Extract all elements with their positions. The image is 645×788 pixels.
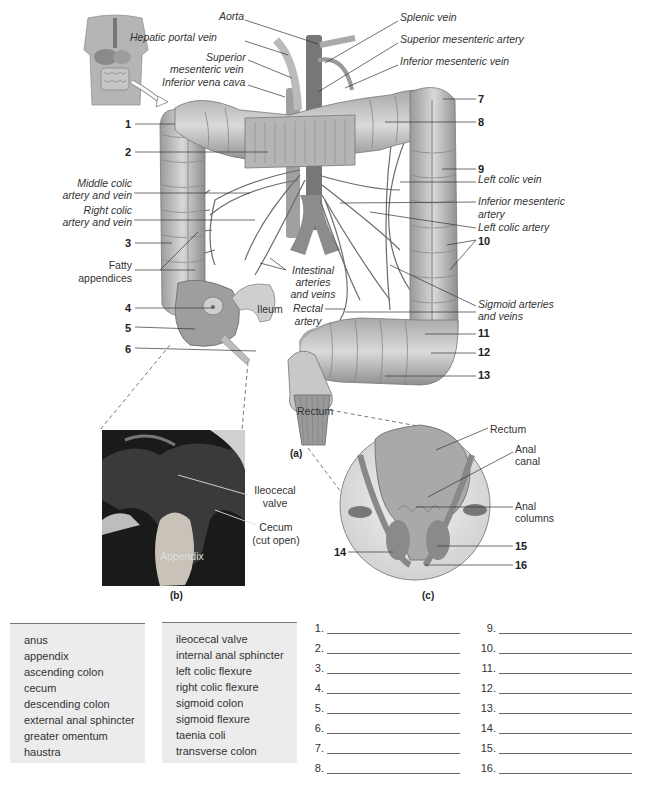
- word-bank-item: appendix: [24, 648, 145, 664]
- label-aorta: Aorta: [219, 10, 244, 23]
- number-3: 3: [125, 237, 131, 250]
- answer-blank-11[interactable]: 11.: [474, 662, 632, 674]
- number-2: 2: [125, 146, 131, 159]
- label-inferior-vena-cava: Inferior vena cava: [162, 76, 245, 89]
- answer-blank-1[interactable]: 1.: [302, 622, 460, 634]
- answer-number: 15.: [474, 742, 499, 754]
- label-sigmoid-arteries-line2: and veins: [478, 310, 523, 323]
- answer-blank-13[interactable]: 13.: [474, 702, 632, 714]
- word-bank-item: internal anal sphincter: [176, 647, 297, 663]
- answer-number: 12.: [474, 682, 499, 694]
- answer-input[interactable]: [327, 763, 460, 774]
- label-fatty-appendices-line1: Fatty: [109, 259, 132, 272]
- word-bank-item: ileocecal valve: [176, 631, 297, 647]
- answer-blank-7[interactable]: 7.: [302, 742, 460, 754]
- label-ileocecal-valve-line1: Ileocecal: [246, 484, 304, 497]
- label-appendix-photo: Appendix: [160, 550, 204, 563]
- answer-blank-10[interactable]: 10.: [474, 642, 632, 654]
- torso-thumbnail: [84, 15, 148, 105]
- answer-number: 7.: [302, 742, 327, 754]
- answer-blank-5[interactable]: 5.: [302, 702, 460, 714]
- label-rectum-a: Rectum: [297, 405, 333, 418]
- number-9: 9: [478, 163, 484, 176]
- answer-input[interactable]: [327, 663, 460, 674]
- word-bank-column-2: ileocecal valve internal anal sphincter …: [162, 622, 297, 763]
- answer-number: 6.: [302, 722, 327, 734]
- panel-c-caption: (c): [422, 590, 434, 603]
- answer-blank-3[interactable]: 3.: [302, 662, 460, 674]
- answer-blank-8[interactable]: 8.: [302, 762, 460, 774]
- label-hepatic-portal-vein: Hepatic portal vein: [130, 31, 217, 44]
- answer-input[interactable]: [327, 683, 460, 694]
- label-cecum-line1: Cecum: [246, 521, 306, 534]
- answer-input[interactable]: [327, 623, 460, 634]
- answer-blank-12[interactable]: 12.: [474, 682, 632, 694]
- answer-input[interactable]: [499, 643, 632, 654]
- answer-blank-15[interactable]: 15.: [474, 742, 632, 754]
- answer-number: 2.: [302, 642, 327, 654]
- label-splenic-vein: Splenic vein: [400, 11, 457, 24]
- label-inferior-mesenteric-artery-line1: Inferior mesenteric: [478, 195, 565, 208]
- label-left-colic-vein: Left colic vein: [478, 173, 542, 186]
- answer-input[interactable]: [499, 623, 632, 634]
- answer-number: 9.: [474, 622, 499, 634]
- answer-blank-2[interactable]: 2.: [302, 642, 460, 654]
- answer-number: 3.: [302, 662, 327, 674]
- word-bank-item: anus: [24, 632, 145, 648]
- answer-blank-4[interactable]: 4.: [302, 682, 460, 694]
- answer-input[interactable]: [327, 643, 460, 654]
- answer-number: 14.: [474, 722, 499, 734]
- answer-blank-16[interactable]: 16.: [474, 762, 632, 774]
- label-superior-mesenteric-vein-line2: mesenteric vein: [170, 63, 244, 76]
- answer-input[interactable]: [499, 703, 632, 714]
- number-15: 15: [515, 540, 527, 553]
- number-10: 10: [478, 235, 490, 248]
- label-superior-mesenteric-vein-line1: Superior: [206, 51, 246, 64]
- answer-blank-9[interactable]: 9.: [474, 622, 632, 634]
- label-left-colic-artery: Left colic artery: [478, 221, 549, 234]
- word-bank-item: haustra: [24, 744, 145, 760]
- answer-input[interactable]: [499, 763, 632, 774]
- number-7: 7: [478, 93, 484, 106]
- answer-input[interactable]: [499, 743, 632, 754]
- label-cecum-line2: (cut open): [246, 534, 306, 547]
- answer-input[interactable]: [327, 703, 460, 714]
- answer-input[interactable]: [499, 683, 632, 694]
- label-middle-colic-line1: Middle colic: [77, 177, 132, 190]
- label-intestinal-line1: Intestinal: [283, 264, 343, 277]
- answer-input[interactable]: [499, 723, 632, 734]
- label-sigmoid-arteries-line1: Sigmoid arteries: [478, 298, 554, 311]
- word-bank-column-1: anus appendix ascending colon cecum desc…: [10, 623, 145, 763]
- answer-input[interactable]: [327, 743, 460, 754]
- label-rectum-c: Rectum: [490, 423, 526, 436]
- answer-input[interactable]: [327, 723, 460, 734]
- label-right-colic-line2: artery and vein: [63, 216, 132, 229]
- number-6: 6: [125, 343, 131, 356]
- word-bank-item: sigmoid colon: [176, 695, 297, 711]
- panel-b-caption: (b): [170, 590, 183, 603]
- label-anal-columns-line1: Anal: [515, 500, 536, 513]
- word-bank-item: external anal sphincter: [24, 712, 145, 728]
- word-bank-item: left colic flexure: [176, 663, 297, 679]
- word-bank-item: right colic flexure: [176, 679, 297, 695]
- answer-number: 5.: [302, 702, 327, 714]
- label-middle-colic-line2: artery and vein: [63, 189, 132, 202]
- answer-blank-6[interactable]: 6.: [302, 722, 460, 734]
- answer-number: 1.: [302, 622, 327, 634]
- word-bank-item: greater omentum: [24, 728, 145, 744]
- label-superior-mesenteric-artery: Superior mesenteric artery: [400, 33, 524, 46]
- number-5: 5: [125, 322, 131, 335]
- label-rectal-artery-line2: artery: [288, 315, 328, 328]
- answer-input[interactable]: [499, 663, 632, 674]
- answer-number: 4.: [302, 682, 327, 694]
- answer-number: 13.: [474, 702, 499, 714]
- number-14: 14: [334, 546, 346, 559]
- answer-number: 11.: [474, 662, 499, 674]
- label-rectal-artery-line1: Rectal: [288, 302, 328, 315]
- word-bank-item: descending colon: [24, 696, 145, 712]
- answer-blank-14[interactable]: 14.: [474, 722, 632, 734]
- number-4: 4: [125, 302, 131, 315]
- panel-a-caption: (a): [290, 448, 302, 461]
- word-bank-item: ascending colon: [24, 664, 145, 680]
- label-anal-columns-line2: columns: [515, 512, 554, 525]
